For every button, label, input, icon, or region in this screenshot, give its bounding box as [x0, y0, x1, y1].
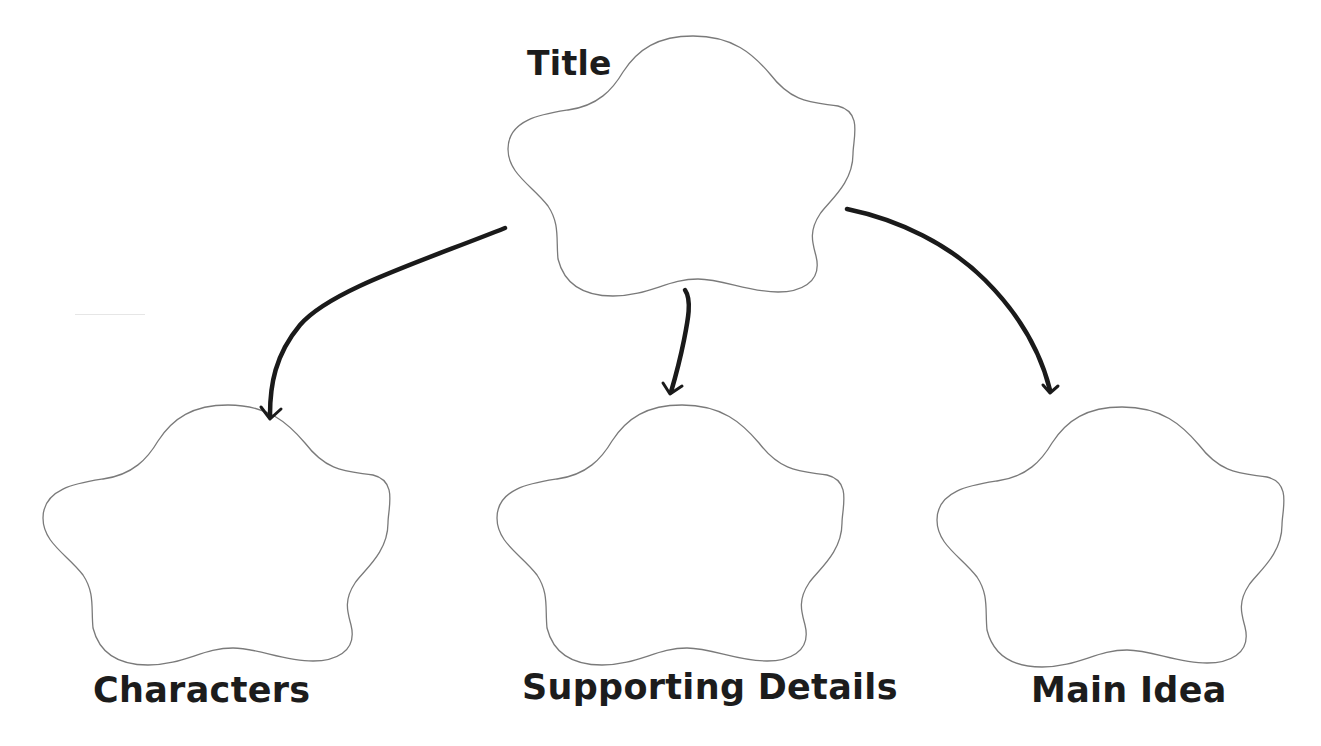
supporting-details-label: Supporting Details — [522, 670, 898, 705]
arrow-to-supporting-details — [663, 290, 689, 394]
arrow-to-main-idea — [847, 209, 1058, 393]
faint-scan-mark — [75, 314, 145, 315]
diagram-canvas — [0, 0, 1321, 746]
main-idea-label: Main Idea — [1031, 673, 1227, 708]
main-idea-flower — [937, 407, 1284, 667]
arrow-to-characters — [261, 228, 505, 419]
characters-label: Characters — [93, 673, 310, 708]
characters-flower — [43, 405, 390, 665]
title-label: Title — [527, 47, 612, 80]
supporting-details-flower — [497, 405, 844, 665]
